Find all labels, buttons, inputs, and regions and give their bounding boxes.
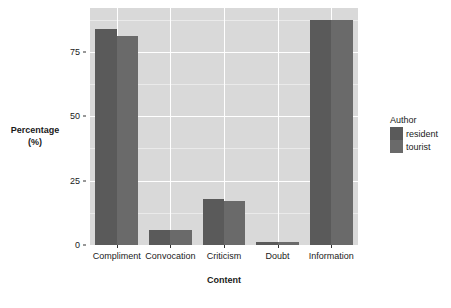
legend-item-tourist[interactable]: tourist bbox=[390, 140, 448, 153]
gridline-vertical bbox=[278, 8, 279, 245]
y-tick-label: 75 bbox=[70, 47, 80, 57]
legend-label-tourist: tourist bbox=[406, 142, 431, 152]
legend-title: Author bbox=[390, 115, 448, 125]
chart-figure: Percentage (%) 0255075 ComplimentConvoca… bbox=[0, 0, 451, 308]
bar-tourist-criticism bbox=[224, 201, 245, 245]
legend-swatch-tourist bbox=[390, 140, 403, 153]
x-axis-ticks: ComplimentConvocationCriticismDoubtInfor… bbox=[90, 245, 358, 275]
x-tick-mark bbox=[278, 245, 279, 248]
bar-resident-compliment bbox=[95, 29, 116, 245]
legend-label-resident: resident bbox=[406, 129, 438, 139]
bar-resident-information bbox=[310, 20, 331, 245]
bar-tourist-compliment bbox=[117, 36, 138, 245]
legend-items: residenttourist bbox=[390, 127, 448, 153]
y-tick-mark bbox=[83, 245, 86, 246]
legend: Author residenttourist bbox=[390, 115, 448, 153]
y-axis-title-line-2: (%) bbox=[4, 136, 66, 148]
x-tick-mark bbox=[117, 245, 118, 248]
y-tick-label: 50 bbox=[70, 111, 80, 121]
bar-tourist-convocation bbox=[170, 230, 191, 245]
x-tick-label-compliment: Compliment bbox=[93, 251, 141, 261]
x-tick-label-information: Information bbox=[309, 251, 354, 261]
y-axis-title-line-1: Percentage bbox=[4, 124, 66, 136]
y-tick-mark bbox=[83, 116, 86, 117]
plot-panel bbox=[90, 8, 358, 245]
x-axis-title: Content bbox=[90, 275, 358, 285]
gridline-vertical bbox=[170, 8, 171, 245]
bar-resident-criticism bbox=[203, 199, 224, 245]
x-tick-label-doubt: Doubt bbox=[266, 251, 290, 261]
x-tick-mark bbox=[224, 245, 225, 248]
x-tick-mark bbox=[331, 245, 332, 248]
y-axis-title: Percentage (%) bbox=[4, 124, 66, 148]
bar-resident-convocation bbox=[149, 230, 170, 245]
legend-item-resident[interactable]: resident bbox=[390, 127, 448, 140]
y-tick-label: 0 bbox=[75, 240, 80, 250]
x-tick-label-convocation: Convocation bbox=[145, 251, 195, 261]
x-tick-mark bbox=[170, 245, 171, 248]
x-tick-label-criticism: Criticism bbox=[207, 251, 242, 261]
bar-tourist-information bbox=[331, 20, 352, 245]
y-tick-mark bbox=[83, 180, 86, 181]
y-tick-mark bbox=[83, 51, 86, 52]
y-tick-label: 25 bbox=[70, 176, 80, 186]
y-axis-ticks: 0255075 bbox=[58, 0, 86, 308]
legend-swatch-resident bbox=[390, 127, 403, 140]
